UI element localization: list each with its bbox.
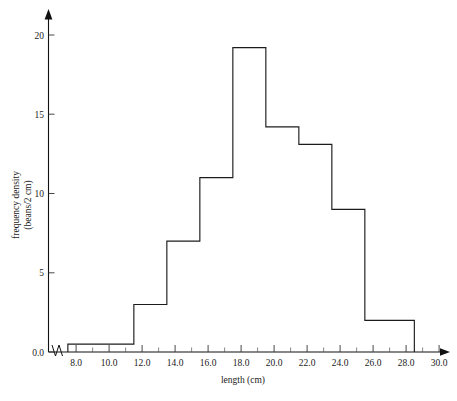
x-tick-label-30: 30.0 — [431, 358, 448, 368]
histogram-bar — [200, 178, 233, 352]
axis-break-icon — [52, 345, 63, 356]
histogram-bar — [332, 209, 365, 352]
y-axis-ticks — [49, 35, 55, 352]
y-axis-title-line1: frequency density — [11, 171, 21, 239]
x-tick-label-20: 20.0 — [266, 358, 283, 368]
histogram-bar — [365, 320, 415, 352]
y-tick-label-10: 10 — [35, 189, 45, 199]
y-axis-title: frequency density (beans/2 cm) — [11, 171, 34, 239]
x-tick-label-24: 24.0 — [332, 358, 349, 368]
x-tick-label-8: 8.0 — [70, 358, 82, 368]
y-axis-tick-labels: 0.0 5 10 15 20 — [32, 31, 44, 358]
y-axis-title-line2: (beans/2 cm) — [23, 180, 34, 229]
histogram-bar — [299, 144, 332, 352]
y-tick-label-15: 15 — [35, 110, 45, 120]
x-axis-arrow-icon — [440, 348, 450, 356]
y-tick-label-0: 0.0 — [32, 348, 44, 358]
y-axis — [45, 9, 53, 352]
x-tick-label-10: 10.0 — [101, 358, 118, 368]
x-tick-label-28: 28.0 — [398, 358, 415, 368]
x-tick-label-26: 26.0 — [365, 358, 382, 368]
histogram-bar — [68, 344, 134, 352]
y-axis-arrow-icon — [45, 9, 53, 20]
histogram-bar — [233, 48, 266, 352]
y-tick-label-20: 20 — [35, 31, 45, 41]
histogram-bar — [167, 241, 200, 352]
x-axis-tick-labels: 8.0 10.0 12.0 14.0 16.0 18.0 20.0 22.0 2… — [70, 358, 448, 368]
x-axis-title: length (cm) — [221, 375, 265, 386]
x-tick-label-14: 14.0 — [167, 358, 184, 368]
y-tick-label-5: 5 — [39, 268, 44, 278]
x-tick-label-12: 12.0 — [134, 358, 151, 368]
histogram-bar — [134, 304, 167, 352]
histogram-plot-area: 0.0 5 10 15 20 frequency density (beans/… — [0, 0, 457, 401]
histogram-chart: 0.0 5 10 15 20 frequency density (beans/… — [0, 0, 457, 401]
x-tick-label-18: 18.0 — [233, 358, 250, 368]
histogram-bars — [68, 48, 415, 352]
x-tick-label-16: 16.0 — [200, 358, 217, 368]
histogram-bar — [266, 127, 299, 352]
x-tick-label-22: 22.0 — [299, 358, 316, 368]
